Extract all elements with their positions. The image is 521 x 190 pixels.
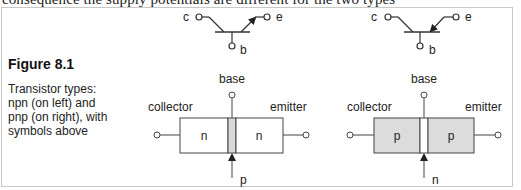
- npn-collector-terminal: [154, 132, 160, 138]
- pnp-symbol-collector-terminal: [385, 14, 391, 20]
- npn-middle-strip: [228, 118, 236, 153]
- pnp-symbol: [385, 14, 459, 49]
- npn-symbol-base-terminal: [229, 43, 235, 49]
- npn-symbol-emitter-terminal: [264, 14, 270, 20]
- npn-base-terminal: [229, 92, 235, 98]
- pnp-emitter-label: emitter: [465, 100, 502, 114]
- pnp-emitter-terminal: [495, 132, 501, 138]
- npn-symbol-b-label: b: [240, 43, 247, 57]
- pnp-symbol-emitter-terminal: [453, 14, 459, 20]
- pnp-middle-strip: [420, 118, 428, 153]
- pnp-middle-region-label: n: [432, 173, 439, 187]
- pnp-left-region-label: p: [394, 129, 401, 143]
- pnp-symbol-emitter-arrow-icon: [431, 17, 444, 31]
- npn-emitter-label: emitter: [270, 100, 307, 114]
- npn-symbol-c-label: c: [183, 10, 189, 24]
- pnp-symbol-b-label: b: [429, 43, 436, 57]
- npn-symbol-collector-terminal: [196, 14, 202, 20]
- npn-emitter-terminal: [303, 132, 309, 138]
- pnp-symbol-c-label: c: [371, 10, 377, 24]
- pnp-base-terminal: [421, 92, 427, 98]
- npn-right-region-label: n: [256, 129, 263, 143]
- npn-middle-region-label: p: [240, 173, 247, 187]
- pnp-symbol-base-terminal: [417, 43, 423, 49]
- npn-collector-label: collector: [148, 100, 193, 114]
- npn-left-region-label: n: [201, 129, 208, 143]
- npn-symbol: [196, 14, 270, 49]
- transistor-diagram: c e b c e b base collector emitter n n: [0, 0, 521, 190]
- pnp-collector-label: collector: [347, 100, 392, 114]
- pnp-symbol-e-label: e: [465, 10, 472, 24]
- pnp-base-label: base: [411, 72, 437, 86]
- pnp-collector-terminal: [347, 132, 353, 138]
- pnp-right-region-label: p: [448, 129, 455, 143]
- npn-base-label: base: [219, 72, 245, 86]
- npn-symbol-e-label: e: [276, 10, 283, 24]
- npn-symbol-emitter-arrow-icon: [241, 18, 255, 32]
